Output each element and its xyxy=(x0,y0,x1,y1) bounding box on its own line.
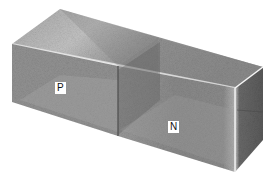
region-label-p: P xyxy=(55,82,66,94)
pn-junction-block xyxy=(0,0,279,184)
region-label-n: N xyxy=(168,121,179,133)
